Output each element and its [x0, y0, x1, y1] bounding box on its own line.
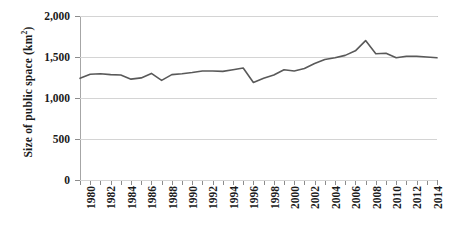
x-axis-tick-mark [202, 181, 203, 185]
x-axis-tick-mark [304, 181, 305, 185]
x-axis-tick-label: 1992 [207, 186, 219, 226]
x-axis-tick-mark [406, 181, 407, 185]
x-axis-tick-mark [182, 181, 183, 185]
x-axis-tick-mark [274, 181, 275, 185]
x-axis-tick-label: 1998 [269, 186, 281, 226]
x-axis-tick-mark [111, 181, 112, 185]
x-axis-tick-mark [325, 181, 326, 185]
x-axis-tick-mark [355, 181, 356, 185]
y-axis-tick-mark [75, 139, 80, 140]
x-axis-tick-mark [376, 181, 377, 185]
x-axis-tick-mark [315, 181, 316, 185]
x-axis-tick-mark [80, 181, 81, 185]
y-axis-tick-mark [75, 16, 80, 17]
x-axis-tick-label: 1980 [85, 186, 97, 226]
x-axis-tick-label: 1996 [248, 186, 260, 226]
x-axis-tick-label: 2002 [309, 186, 321, 226]
x-axis-tick-mark [121, 181, 122, 185]
x-axis-tick-mark [172, 181, 173, 185]
x-axis-tick-mark [162, 181, 163, 185]
x-axis-tick-label: 1994 [228, 186, 240, 226]
chart-container: Size of public space (km2) 05001,0001,50… [0, 0, 463, 229]
x-axis-tick-label: 2006 [350, 186, 362, 226]
x-axis-tick-label: 2010 [391, 186, 403, 226]
x-axis-tick-mark [151, 181, 152, 185]
x-axis-tick-mark [417, 181, 418, 185]
x-axis-tick-mark [243, 181, 244, 185]
x-axis-tick-mark [192, 181, 193, 185]
x-axis-tick-label: 2012 [411, 186, 423, 226]
x-axis-tick-mark [223, 181, 224, 185]
x-axis-tick-mark [294, 181, 295, 185]
x-axis-tick-label: 2004 [330, 186, 342, 226]
x-axis-tick-mark [233, 181, 234, 185]
x-axis-tick-label: 1990 [187, 186, 199, 226]
x-axis-tick-mark [264, 181, 265, 185]
x-axis-tick-mark [366, 181, 367, 185]
x-axis-tick-mark [335, 181, 336, 185]
x-axis-tick-mark [437, 181, 438, 185]
x-axis-tick-mark [131, 181, 132, 185]
x-axis-tick-label: 1982 [105, 186, 117, 226]
x-axis-tick-mark [284, 181, 285, 185]
x-axis-tick-mark [90, 181, 91, 185]
x-axis-tick-label: 1988 [167, 186, 179, 226]
y-axis-tick-mark [75, 57, 80, 58]
x-axis-tick-mark [253, 181, 254, 185]
x-axis-tick-label: 2000 [289, 186, 301, 226]
x-axis-tick-mark [396, 181, 397, 185]
y-axis-tick-mark [75, 98, 80, 99]
x-axis-tick-mark [141, 181, 142, 185]
x-axis-tick-label: 1986 [146, 186, 158, 226]
x-axis-tick-label: 2008 [371, 186, 383, 226]
x-axis-tick-mark [100, 181, 101, 185]
y-axis-tick-mark [75, 180, 80, 181]
x-axis-tick-mark [345, 181, 346, 185]
x-axis-tick-mark [427, 181, 428, 185]
x-axis-tick-label: 1984 [126, 186, 138, 226]
x-axis-tick-mark [213, 181, 214, 185]
x-axis-tick-label: 2014 [432, 186, 444, 226]
x-axis-tick-mark [386, 181, 387, 185]
